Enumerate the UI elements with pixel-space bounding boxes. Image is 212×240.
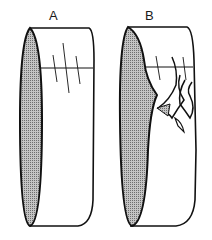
ring-b (120, 27, 196, 226)
ring-a-edge (20, 28, 42, 226)
ring-a (20, 28, 94, 226)
ring-comparison-figure: A B (0, 0, 212, 240)
ring-drawings (0, 0, 212, 240)
